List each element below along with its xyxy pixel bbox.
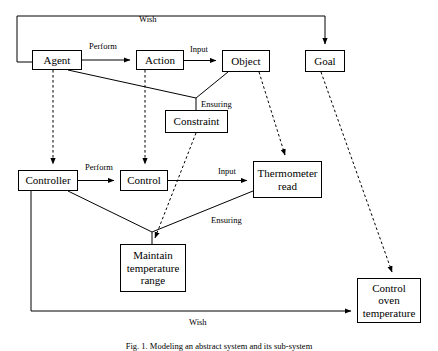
node-control-oven-temperature[interactable]: Control oven temperature (357, 278, 421, 323)
node-controller[interactable]: Controller (18, 170, 78, 191)
edge-label-wish-bottom: Wish (189, 317, 207, 327)
node-action-label: Action (137, 54, 183, 67)
connector-goal-to-oven (321, 72, 392, 272)
connector-ensuring-top-vee (68, 70, 228, 98)
node-control[interactable]: Control (120, 170, 168, 191)
node-controller-label: Controller (19, 174, 77, 187)
edge-label-input-top: Input (190, 44, 208, 54)
node-agent[interactable]: Agent (32, 50, 82, 70)
node-object[interactable]: Object (222, 50, 270, 72)
node-thermometer-read[interactable]: Thermometer read (253, 161, 322, 198)
node-control-label: Control (121, 174, 167, 187)
node-object-label: Object (223, 55, 269, 68)
node-control-oven-temperature-label: Control oven temperature (358, 282, 420, 320)
edge-label-ensuring-top: Ensuring (201, 99, 232, 109)
node-agent-label: Agent (33, 54, 81, 67)
node-maintain-temperature-range[interactable]: Maintain temperature range (120, 244, 186, 292)
connector-wish-controller-to-oven (31, 191, 351, 311)
node-constraint[interactable]: Constraint (165, 110, 228, 133)
edge-label-ensuring-bottom: Ensuring (211, 215, 242, 225)
node-goal[interactable]: Goal (305, 50, 345, 72)
node-goal-label: Goal (306, 55, 344, 68)
edge-label-input-bottom: Input (218, 166, 236, 176)
node-maintain-temperature-range-label: Maintain temperature range (121, 249, 185, 287)
connector-ensuring-bottom-vee (68, 191, 253, 232)
edge-label-wish-top: Wish (139, 14, 157, 24)
connector-object-to-thermometer (259, 72, 285, 155)
figure-caption: Fig. 1. Modeling an abstract system and … (0, 341, 438, 351)
node-constraint-label: Constraint (166, 115, 227, 128)
edge-label-perform-bottom: Perform (85, 162, 113, 172)
node-action[interactable]: Action (136, 50, 184, 70)
edge-label-perform-top: Perform (89, 41, 117, 51)
node-thermometer-read-label: Thermometer read (254, 167, 321, 192)
